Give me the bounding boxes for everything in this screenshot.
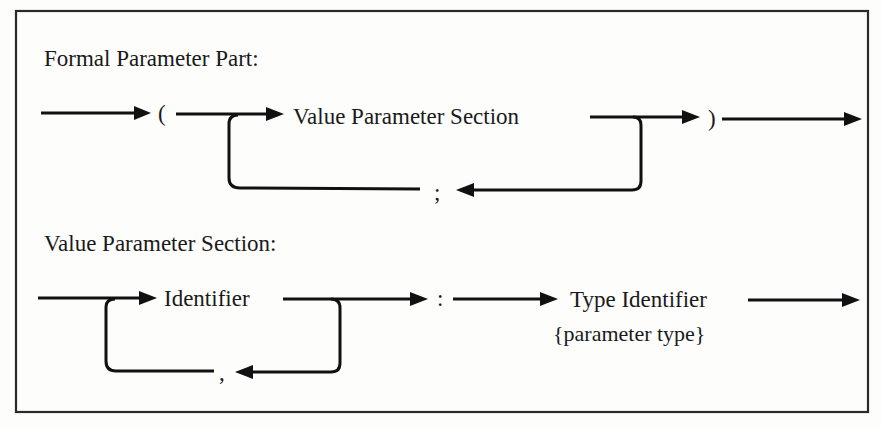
type-identifier-node: Type Identifier (570, 287, 707, 312)
loop-left-arrowhead-2-icon (235, 365, 253, 379)
identifier-node: Identifier (164, 286, 250, 311)
parameter-type-note: {parameter type} (553, 321, 705, 346)
arrow-to-type-identifier-icon (453, 292, 558, 306)
loop-left-arrowhead-icon (456, 183, 474, 197)
colon-terminal: : (437, 286, 443, 311)
comma-separator: , (219, 360, 225, 385)
value-parameter-section-title: Value Parameter Section: (44, 231, 276, 256)
open-paren-terminal: ( (158, 101, 166, 126)
arrow-to-identifier-icon (38, 291, 157, 305)
formal-parameter-part-title: Formal Parameter Part: (44, 46, 259, 71)
exit-arrow-2-icon (748, 293, 860, 307)
value-parameter-section-node: Value Parameter Section (293, 104, 520, 129)
value-parameter-section-diagram: Value Parameter Section: Identifier : Ty… (38, 231, 860, 385)
syntax-diagram: Formal Parameter Part: ( Value Parameter… (0, 0, 882, 427)
formal-parameter-part-diagram: Formal Parameter Part: ( Value Parameter… (41, 46, 862, 205)
arrow-to-colon-icon (283, 292, 428, 306)
entry-arrow-icon (41, 106, 151, 120)
semicolon-separator: ; (434, 180, 440, 205)
diagram-frame (16, 11, 868, 412)
exit-arrow-icon (722, 112, 862, 126)
close-paren-terminal: ) (708, 106, 716, 131)
arrow-to-close-paren-icon (590, 110, 700, 124)
